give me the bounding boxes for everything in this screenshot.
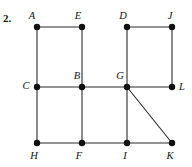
vertex-label-f: F <box>75 150 83 161</box>
vertex-dot-f <box>79 140 85 146</box>
vertex-dot-i <box>124 140 130 146</box>
vertex-label-i: I <box>122 150 127 161</box>
vertex-dot-j <box>169 24 175 30</box>
vertex-dot-c <box>34 84 40 90</box>
vertex-labels-group: AEDJCBGLHFIK <box>22 10 185 161</box>
edge-G-K <box>127 87 172 143</box>
vertex-label-k: K <box>165 150 174 161</box>
vertex-dot-d <box>124 24 130 30</box>
figure-container: 2. AEDJCBGLHFIK <box>0 0 192 167</box>
vertex-dot-l <box>169 84 175 90</box>
vertex-label-e: E <box>74 10 82 21</box>
vertex-dot-g <box>124 84 130 90</box>
vertex-dot-h <box>34 140 40 146</box>
edges-group <box>37 27 172 143</box>
vertex-label-l: L <box>178 81 185 92</box>
vertex-label-d: D <box>118 10 127 21</box>
vertex-label-h: H <box>29 150 39 161</box>
vertex-label-c: C <box>22 80 30 91</box>
vertex-dot-e <box>79 24 85 30</box>
vertex-label-j: J <box>168 10 174 21</box>
vertex-dot-a <box>34 24 40 30</box>
vertex-dot-k <box>169 140 175 146</box>
vertex-label-g: G <box>116 70 124 81</box>
graph-diagram: AEDJCBGLHFIK <box>0 0 192 167</box>
vertex-dot-b <box>79 84 85 90</box>
vertex-label-a: A <box>28 10 36 21</box>
vertices-group <box>34 24 175 146</box>
vertex-label-b: B <box>74 70 81 81</box>
